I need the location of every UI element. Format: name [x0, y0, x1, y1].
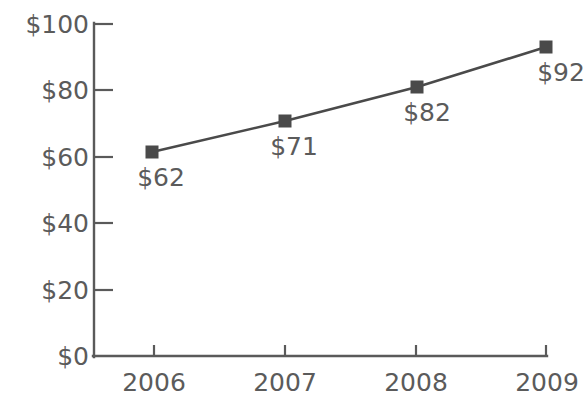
y-tick-label-60: $60 [41, 143, 89, 172]
data-point-label-2008: $82 [403, 98, 451, 127]
data-point-marker-2009 [540, 41, 553, 54]
y-tick-label-20: $20 [41, 276, 89, 305]
data-point-marker-2006 [146, 146, 159, 159]
x-tick-label-2007: 2007 [253, 368, 317, 397]
y-tick-label-80: $80 [41, 76, 89, 105]
data-point-label-2007: $71 [270, 132, 318, 161]
x-tick-label-2006: 2006 [122, 368, 186, 397]
y-tick-label-40: $40 [41, 209, 89, 238]
y-tick-label-0: $0 [57, 342, 89, 371]
data-point-marker-2008 [411, 81, 424, 94]
data-point-markers [146, 41, 553, 159]
series-line [152, 47, 546, 152]
data-point-marker-2007 [279, 115, 292, 128]
y-axis-ticks [94, 24, 113, 290]
y-tick-label-100: $100 [25, 10, 89, 39]
data-point-label-2009: $92 [537, 58, 585, 87]
x-tick-label-2009: 2009 [515, 368, 579, 397]
data-point-label-2006: $62 [137, 163, 185, 192]
x-tick-label-2008: 2008 [384, 368, 448, 397]
